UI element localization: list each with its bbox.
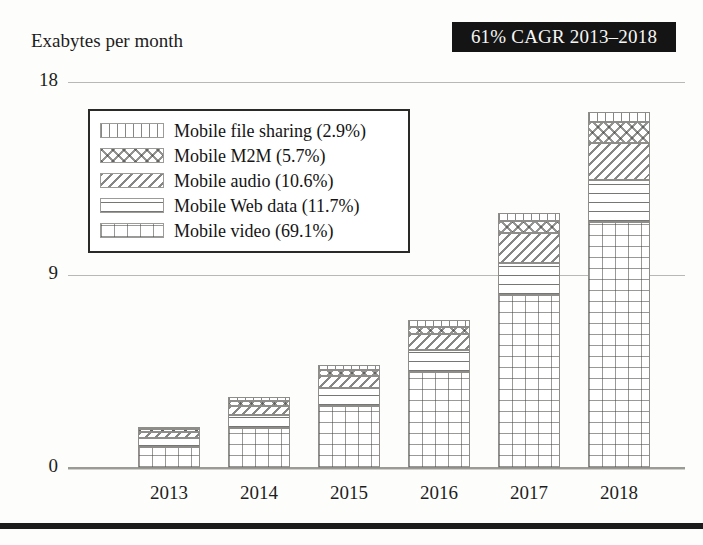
bar-segment-2017-mobile-web-data-11-7[interactable] [498, 263, 560, 295]
x-axis-label-2013: 2013 [124, 482, 214, 504]
bar-segment-2013-mobile-file-sharing-2-9[interactable] [138, 427, 200, 429]
legend-item-label: Mobile M2M (5.7%) [174, 147, 326, 165]
bar-segment-2017-mobile-audio-10-6[interactable] [498, 233, 560, 263]
bar-segment-2015-mobile-audio-10-6[interactable] [318, 376, 380, 388]
bar-2013[interactable] [138, 427, 200, 468]
bar-segment-2017-mobile-file-sharing-2-9[interactable] [498, 213, 560, 222]
bar-segment-2013-mobile-web-data-11-7[interactable] [138, 438, 200, 447]
bar-segment-2014-mobile-video-69-1[interactable] [228, 428, 290, 468]
bar-segment-2014-mobile-m2m-5-7[interactable] [228, 401, 290, 406]
bar-segment-2018-mobile-audio-10-6[interactable] [588, 143, 650, 181]
legend-item-mobile-file-sharing-2-9[interactable]: Mobile file sharing (2.9%) [100, 118, 398, 143]
bar-segment-2014-mobile-audio-10-6[interactable] [228, 406, 290, 415]
legend-item-label: Mobile file sharing (2.9%) [174, 122, 366, 140]
bar-segment-2016-mobile-video-69-1[interactable] [408, 372, 470, 468]
bar-2017[interactable] [498, 213, 560, 468]
footer-rule [0, 523, 703, 529]
legend-swatch-vertical-lines-icon [100, 123, 164, 138]
bar-segment-2013-mobile-video-69-1[interactable] [138, 447, 200, 468]
legend-swatch-grid-icon [100, 223, 164, 238]
plot-area: 0918201320142015201620172018 [0, 0, 703, 545]
gridline-18 [68, 82, 685, 83]
bar-2018[interactable] [588, 112, 650, 468]
legend-item-label: Mobile Web data (11.7%) [174, 197, 360, 215]
legend-item-label: Mobile audio (10.6%) [174, 172, 333, 190]
bar-segment-2014-mobile-file-sharing-2-9[interactable] [228, 397, 290, 401]
x-axis-label-2017: 2017 [484, 482, 574, 504]
bar-segment-2013-mobile-m2m-5-7[interactable] [138, 429, 200, 432]
bar-segment-2018-mobile-video-69-1[interactable] [588, 222, 650, 468]
bar-segment-2018-mobile-m2m-5-7[interactable] [588, 122, 650, 142]
bar-segment-2014-mobile-web-data-11-7[interactable] [228, 415, 290, 429]
bar-segment-2016-mobile-m2m-5-7[interactable] [408, 327, 470, 334]
x-axis-label-2015: 2015 [304, 482, 394, 504]
x-axis-label-2016: 2016 [394, 482, 484, 504]
legend-swatch-crosshatch-diamond-icon [100, 148, 164, 163]
bar-2015[interactable] [318, 365, 380, 468]
bar-segment-2016-mobile-file-sharing-2-9[interactable] [408, 320, 470, 327]
legend-item-mobile-video-69-1[interactable]: Mobile video (69.1%) [100, 218, 398, 243]
legend-item-mobile-audio-10-6[interactable]: Mobile audio (10.6%) [100, 168, 398, 193]
legend-item-mobile-web-data-11-7[interactable]: Mobile Web data (11.7%) [100, 193, 398, 218]
chart-figure: 61% CAGR 2013–2018 Exabytes per month 09… [0, 0, 703, 545]
legend-item-mobile-m2m-5-7[interactable]: Mobile M2M (5.7%) [100, 143, 398, 168]
y-axis-tick-0: 0 [12, 455, 58, 477]
bar-2016[interactable] [408, 320, 470, 468]
bar-segment-2015-mobile-web-data-11-7[interactable] [318, 388, 380, 406]
bar-segment-2016-mobile-web-data-11-7[interactable] [408, 350, 470, 372]
x-axis-label-2014: 2014 [214, 482, 304, 504]
bar-segment-2015-mobile-m2m-5-7[interactable] [318, 370, 380, 376]
bar-segment-2015-mobile-video-69-1[interactable] [318, 406, 380, 468]
bar-segment-2018-mobile-file-sharing-2-9[interactable] [588, 112, 650, 122]
bar-segment-2017-mobile-m2m-5-7[interactable] [498, 221, 560, 232]
y-axis-tick-9: 9 [12, 262, 58, 284]
x-axis-label-2018: 2018 [574, 482, 664, 504]
bar-segment-2015-mobile-file-sharing-2-9[interactable] [318, 365, 380, 370]
bar-2014[interactable] [228, 397, 290, 468]
chart-legend: Mobile file sharing (2.9%)Mobile M2M (5.… [88, 109, 410, 253]
legend-item-label: Mobile video (69.1%) [174, 222, 333, 240]
bar-segment-2013-mobile-audio-10-6[interactable] [138, 432, 200, 438]
bar-segment-2017-mobile-video-69-1[interactable] [498, 295, 560, 468]
y-axis-tick-18: 18 [12, 69, 58, 91]
legend-swatch-diagonal-lines-icon [100, 173, 164, 188]
bar-segment-2016-mobile-audio-10-6[interactable] [408, 334, 470, 350]
legend-swatch-horizontal-lines-icon [100, 198, 164, 213]
bar-segment-2018-mobile-web-data-11-7[interactable] [588, 180, 650, 222]
